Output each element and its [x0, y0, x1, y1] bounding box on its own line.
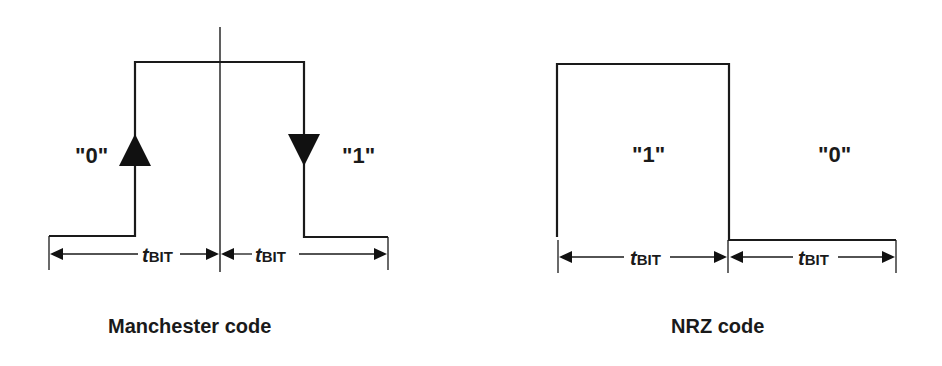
nrz-caption: NRZ code	[671, 315, 764, 337]
arrow-left-icon	[559, 251, 572, 263]
arrow-right-icon	[882, 251, 895, 263]
manchester-caption: Manchester code	[108, 315, 271, 337]
t-bit-label: tBIT	[630, 247, 661, 269]
nrz-diagram: "1" "0" tBIT tBIT NRZ code	[557, 64, 896, 337]
bit-label-1: "1"	[632, 142, 665, 167]
t-bit-label: tBIT	[142, 244, 173, 266]
rising-edge-arrow-icon	[119, 134, 151, 166]
falling-edge-arrow-icon	[288, 134, 320, 166]
bit-label-0: "0"	[818, 142, 851, 167]
manchester-diagram: "0" "1" tBIT tBIT Manchester code	[49, 27, 388, 337]
arrow-right-icon	[206, 248, 219, 260]
encoding-diagram: "0" "1" tBIT tBIT Manchester code "1" "0…	[0, 0, 942, 366]
t-bit-label: tBIT	[255, 244, 286, 266]
bit-label-1: "1"	[342, 143, 375, 168]
arrow-left-icon	[50, 248, 63, 260]
t-bit-label: tBIT	[798, 247, 829, 269]
arrow-left-icon	[221, 248, 234, 260]
arrow-right-icon	[714, 251, 727, 263]
arrow-left-icon	[730, 251, 743, 263]
bit-label-0: "0"	[75, 143, 108, 168]
arrow-right-icon	[374, 248, 387, 260]
